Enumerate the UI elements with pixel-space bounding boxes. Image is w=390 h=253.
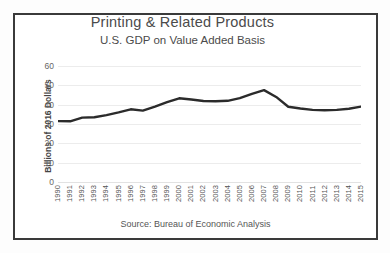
y-axis-tick-label: 30 (14, 120, 54, 128)
x-axis-tick-label: 2000 (174, 185, 184, 217)
x-axis-baseline (58, 182, 361, 183)
x-axis-tick-label: 2013 (332, 185, 342, 217)
y-axis-tick-label: 20 (14, 139, 54, 147)
y-axis-tick-label: 0 (14, 178, 54, 186)
x-axis-tick-label: 2009 (283, 185, 293, 217)
x-axis-tick-label: 1999 (162, 185, 172, 217)
x-axis-tick-label: 1998 (150, 185, 160, 217)
x-axis-tick-label: 1997 (138, 185, 148, 217)
x-axis-tick-label: 2015 (356, 185, 366, 217)
x-axis-tick-label: 2004 (223, 185, 233, 217)
x-axis-tick-label: 1994 (101, 185, 111, 217)
chart-figure: Printing & Related Products U.S. GDP on … (0, 0, 390, 253)
x-axis-tick-label: 1995 (114, 185, 124, 217)
source-note: Source: Bureau of Economic Analysis (13, 219, 378, 229)
x-axis-tick-labels: 1990199119921993199419951996199719981999… (58, 185, 361, 219)
plot-area (58, 66, 361, 182)
page-title: Printing & Related Products (0, 13, 365, 32)
x-axis-tick-label: 2012 (320, 185, 330, 217)
chart-subtitle: U.S. GDP on Value Added Basis (0, 32, 365, 48)
y-axis-tick-label: 60 (14, 62, 54, 70)
x-axis-tick-label: 2006 (247, 185, 257, 217)
data-series-line (58, 66, 361, 182)
x-axis-tick-label: 2008 (271, 185, 281, 217)
y-axis-tick-labels: 6050403020100 (10, 66, 54, 182)
x-axis-tick-label: 2001 (186, 185, 196, 217)
x-axis-tick-label: 2011 (308, 185, 318, 217)
x-axis-tick-label: 2005 (235, 185, 245, 217)
x-axis-tick-label: 2002 (198, 185, 208, 217)
x-axis-tick-label: 1993 (89, 185, 99, 217)
x-axis-tick-label: 2014 (344, 185, 354, 217)
x-axis-tick-label: 2010 (295, 185, 305, 217)
x-axis-tick-label: 2003 (211, 185, 221, 217)
chart-title-block: Printing & Related Products U.S. GDP on … (0, 13, 365, 48)
y-axis-tick-label: 50 (14, 81, 54, 89)
x-axis-tick-label: 1996 (126, 185, 136, 217)
x-axis-tick-label: 2007 (259, 185, 269, 217)
y-axis-tick-label: 40 (14, 101, 54, 109)
x-axis-tick-label: 1990 (53, 185, 63, 217)
x-axis-tick-label: 1992 (77, 185, 87, 217)
x-axis-tick-label: 1991 (65, 185, 75, 217)
y-axis-tick-label: 10 (14, 159, 54, 167)
